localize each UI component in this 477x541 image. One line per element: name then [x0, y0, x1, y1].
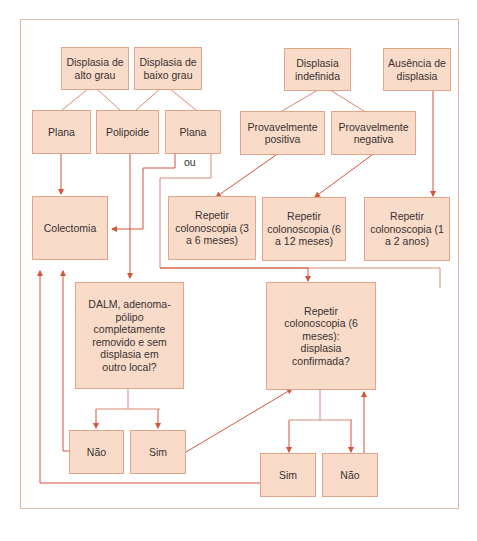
- node-nao-1: Não: [69, 430, 124, 474]
- node-displasia-alto-grau: Displasia de alto grau: [61, 47, 129, 90]
- node-dalm-question: DALM, adenoma-pólipo completamente remov…: [75, 282, 184, 389]
- node-repetir-6-meses-question: Repetir colonoscopia (6 meses): displasi…: [266, 282, 376, 390]
- node-polipoide: Polipoide: [96, 110, 159, 154]
- node-sim-2: Sim: [260, 453, 316, 497]
- node-plana-2: Plana: [165, 110, 221, 154]
- node-provavelmente-negativa: Provavelmente negativa: [331, 111, 416, 155]
- node-repetir-3-6-meses: Repetir colonoscopia (3 a 6 meses): [168, 196, 256, 260]
- node-colectomia: Colectomia: [32, 196, 108, 260]
- node-sim-1: Sim: [130, 430, 186, 474]
- node-repetir-1-2-anos: Repetir colonoscopia (1 a 2 anos): [364, 197, 450, 261]
- node-nao-2: Não: [322, 453, 378, 497]
- or-label: ou: [184, 156, 196, 168]
- node-ausencia-displasia: Ausência de displasia: [383, 48, 451, 91]
- node-plana-1: Plana: [32, 110, 91, 154]
- node-provavelmente-positiva: Provavelmente positiva: [240, 111, 325, 155]
- node-displasia-baixo-grau: Displasia de baixo grau: [134, 47, 202, 90]
- node-displasia-indefinida: Displasia indefinida: [284, 48, 351, 91]
- node-repetir-6-12-meses: Repetir colonoscopia (6 a 12 meses): [262, 197, 346, 261]
